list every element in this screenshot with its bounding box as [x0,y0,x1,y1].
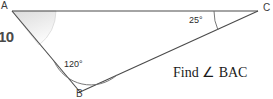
angle-arc-c [214,11,218,30]
vertex-label-a: A [1,0,8,11]
vertex-label-b: B [76,88,83,99]
vertex-label-c: C [263,2,270,13]
triangle-diagram [0,0,273,99]
angle-measure-c: 25° [189,15,203,25]
angle-measure-b: 120° [64,59,83,69]
side-length-label: 10 [0,28,14,45]
geometry-figure: A C B 25° 120° 10 Find ∠ BAC [0,0,273,99]
problem-prompt: Find ∠ BAC [173,64,247,81]
angle-a-shaded-sector [12,11,56,45]
